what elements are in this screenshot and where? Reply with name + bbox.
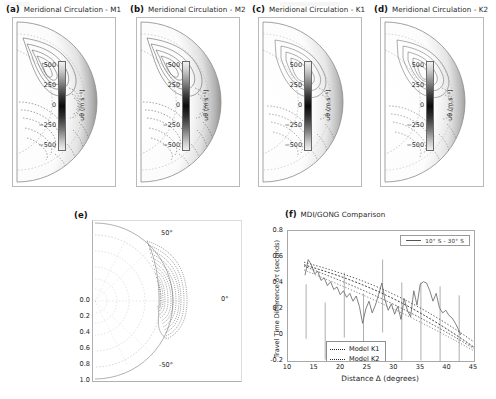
meridional-plot-d: uθ (m s⁻¹) 500 250 0 −250 −500	[372, 17, 490, 187]
panel-e-plot: 50° 0° -50°	[92, 220, 242, 382]
legend-dotted-swatch	[330, 349, 345, 350]
panel-e-ytick: 0.0	[70, 296, 90, 304]
figure-canvas: (a) Meridional Circulation - M1	[0, 0, 496, 399]
colorbar-tick: 250	[290, 81, 302, 89]
colorbar-b: uθ (m s⁻¹) 500 250 0 −250 −500	[160, 61, 212, 149]
panel-b: (b) Meridional Circulation - M2	[128, 4, 250, 200]
colorbar-d: uθ (m s⁻¹) 500 250 0 −250 −500	[404, 61, 456, 149]
colorbar-tick: 0	[176, 101, 180, 109]
colorbar-label-a: uθ (m s⁻¹)	[78, 89, 85, 120]
colorbar-c: uθ (m s⁻¹) 500 250 0 −250 −500	[282, 61, 334, 149]
colorbar-tick: 250	[168, 81, 180, 89]
colorbar-gradient-b	[182, 61, 190, 151]
colorbar-tick: −500	[284, 141, 302, 149]
panel-a-title: Meridional Circulation - M1	[24, 5, 122, 14]
panel-c-tag: (c)	[252, 4, 265, 14]
panel-f-xtick: 35	[416, 363, 424, 371]
panel-c: (c) Meridional Circulation - K1	[250, 4, 372, 200]
panel-e-angle-label-0: 0°	[221, 295, 229, 303]
colorbar-tick: 500	[44, 61, 56, 69]
model-k1-curve	[304, 265, 474, 347]
panel-d: (d) Meridional Circulation - K2	[372, 4, 496, 200]
panel-c-title: Meridional Circulation - K1	[269, 5, 365, 14]
meridional-plot-c: uθ (m s⁻¹) 500 250 0 −250 −500	[250, 17, 368, 187]
panel-d-title: Meridional Circulation - K2	[392, 5, 488, 14]
model-m2-curve	[304, 270, 474, 351]
colorbar-tick: −500	[406, 141, 424, 149]
panel-f-tag: (f)	[285, 209, 297, 219]
panel-f-xtick: 30	[389, 363, 397, 371]
panel-f-ylabel: Travel Time Difference δτ (seconds)	[273, 229, 281, 369]
legend-dotted-swatch	[330, 359, 345, 360]
panel-f-xlabel: Distance Δ (degrees)	[287, 374, 473, 383]
panel-f-xtick: 20	[336, 363, 344, 371]
panel-a-tag: (a)	[6, 4, 20, 14]
colorbar-tick: −250	[406, 121, 424, 129]
panel-a: (a) Meridional Circulation - M1	[4, 4, 126, 200]
panel-e-tag: (e)	[74, 210, 88, 220]
colorbar-tick: 0	[52, 101, 56, 109]
panel-e-ytick: 0.6	[70, 344, 90, 352]
panel-f-xtick: 15	[309, 363, 317, 371]
panel-f-title: MDI/GONG Comparison	[301, 210, 386, 219]
colorbar-tick: 500	[412, 61, 424, 69]
panel-b-tag: (b)	[130, 4, 144, 14]
colorbar-tick: −250	[162, 121, 180, 129]
panel-f: (f) MDI/GONG Comparison 0.8 0.6 0.4 0.2 …	[255, 206, 496, 399]
panel-f-plot: 10° S - 30° S Model K1 Model K2 Model M1	[287, 230, 475, 362]
colorbar-tick: 500	[290, 61, 302, 69]
colorbar-tick: 250	[412, 81, 424, 89]
colorbar-gradient-c	[304, 61, 312, 151]
panel-f-xtick: 10	[283, 363, 291, 371]
panel-e-angle-label-m50: -50°	[159, 361, 173, 369]
colorbar-label-c: uθ (m s⁻¹)	[324, 89, 331, 120]
colorbar-tick: −500	[38, 141, 56, 149]
meridional-plot-a: uθ (m s⁻¹) 500 250 0 −250 −500	[4, 17, 122, 187]
ray-path-diagram	[93, 221, 241, 381]
colorbar-tick: −250	[284, 121, 302, 129]
panel-e: (e) 0.0 0.2 0.4 0.6 0.8 1.0	[70, 206, 250, 396]
colorbar-tick: 0	[298, 101, 302, 109]
panel-e-angle-label-50: 50°	[161, 229, 173, 237]
legend-line-swatch	[406, 240, 421, 241]
legend-item-k2: Model K2	[330, 354, 381, 362]
colorbar-label-b: uθ (m s⁻¹)	[202, 89, 209, 120]
model-legend: Model K1 Model K2 Model M1 Model M2	[326, 341, 386, 362]
colorbar-a: uθ (m s⁻¹) 500 250 0 −250 −500	[36, 61, 88, 149]
panel-e-ytick: 0.8	[70, 360, 90, 368]
panel-d-tag: (d)	[374, 4, 388, 14]
colorbar-tick: −250	[38, 121, 56, 129]
meridional-plot-b: uθ (m s⁻¹) 500 250 0 −250 −500	[128, 17, 246, 187]
panel-e-ytick: 0.4	[70, 328, 90, 336]
colorbar-gradient-a	[58, 61, 66, 151]
colorbar-tick: 250	[44, 81, 56, 89]
panel-e-ytick: 0.2	[70, 312, 90, 320]
colorbar-gradient-d	[426, 61, 434, 151]
colorbar-tick: 500	[168, 61, 180, 69]
panel-b-title: Meridional Circulation - M2	[148, 5, 246, 14]
colorbar-tick: 0	[420, 101, 424, 109]
legend-observation-label: 10° S - 30° S	[425, 238, 464, 244]
panel-e-ytick: 1.0	[70, 376, 90, 384]
panel-f-xtick: 25	[362, 363, 370, 371]
legend-label-k1: Model K1	[349, 345, 379, 353]
panel-f-xtick: 40	[442, 363, 450, 371]
legend-label-k2: Model K2	[349, 355, 379, 362]
observation-legend: 10° S - 30° S	[400, 235, 470, 246]
legend-item-k1: Model K1	[330, 344, 381, 354]
panel-f-xtick: 45	[469, 363, 477, 371]
colorbar-label-d: uθ (m s⁻¹)	[446, 89, 453, 120]
colorbar-tick: −500	[162, 141, 180, 149]
